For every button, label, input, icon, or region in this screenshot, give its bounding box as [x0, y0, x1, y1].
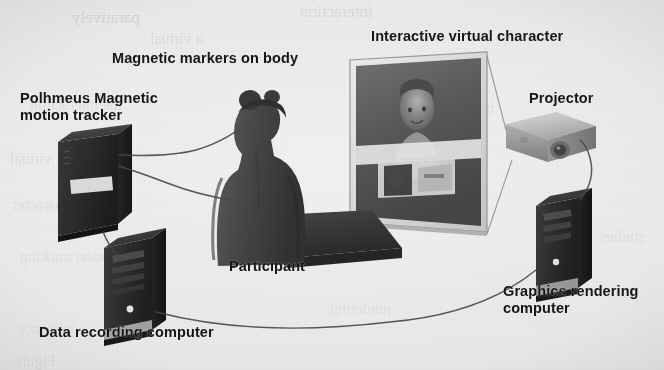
- figure-canvas: parativelyinteractiona virtualthe intera…: [0, 0, 664, 370]
- power-button-indicator: [553, 259, 559, 265]
- cable-recorder-to-renderer: [156, 270, 536, 328]
- label-data-recording-computer: Data recording computer: [39, 324, 214, 341]
- label-graphics-rendering-computer: Graphics rendering computer: [503, 283, 639, 317]
- hair-bun: [239, 90, 261, 110]
- motion-tracker-device: [58, 124, 132, 242]
- screen-lower-scene: [378, 155, 455, 198]
- participant-figure: [213, 90, 306, 266]
- label-projector: Projector: [529, 90, 594, 107]
- label-participant: Participant: [229, 258, 305, 275]
- beam-bottom-edge: [487, 160, 512, 234]
- label-magnetic-markers: Magnetic markers on body: [112, 50, 298, 67]
- cable-marker-lower: [119, 166, 230, 200]
- label-interactive-virtual-character: Interactive virtual character: [371, 28, 563, 45]
- power-button-indicator: [127, 306, 134, 313]
- projector-device: [506, 112, 596, 162]
- drive-bays: [543, 209, 572, 243]
- label-motion-tracker: Polhmeus Magnetic motion tracker: [20, 90, 158, 124]
- projection-screen: [350, 52, 487, 236]
- beam-top-edge: [487, 56, 506, 130]
